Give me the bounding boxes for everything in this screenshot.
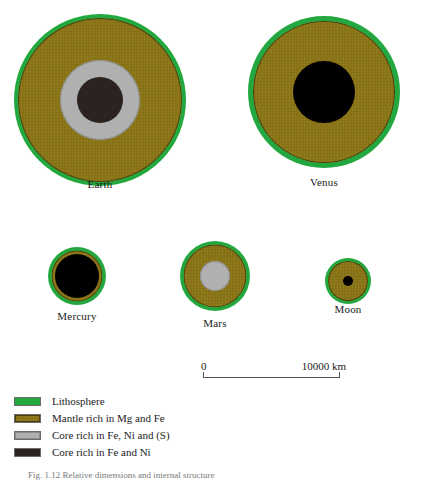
moon-core [343,276,353,286]
scale-tick-right [339,372,340,378]
scale-max-label: 10000 km [302,360,346,372]
scale-bar-line [203,377,340,378]
legend-label-lithosphere: Lithosphere [52,396,105,407]
legend-label-mantle: Mantle rich in Mg and Fe [52,413,165,424]
legend-label-inner-core: Core rich in Fe and Ni [52,447,151,458]
planet-venus [248,16,400,168]
legend-swatch-mantle [14,414,41,423]
legend-swatch-inner-core [14,448,41,457]
legend: Lithosphere Mantle rich in Mg and Fe Cor… [14,393,170,461]
scale-min-label: 0 [201,360,207,372]
mercury-core [55,254,99,298]
figure-caption: Fig. 1.12 Relative dimensions and intern… [28,470,418,480]
venus-core [293,61,355,123]
legend-item-inner-core: Core rich in Fe and Ni [14,444,170,461]
legend-swatch-lithosphere [14,397,41,406]
planet-label-moon: Moon [308,303,388,315]
planet-moon [325,258,371,304]
legend-item-mantle: Mantle rich in Mg and Fe [14,410,170,427]
earth-inner-core [77,77,123,123]
legend-item-outer-core: Core rich in Fe, Ni and (S) [14,427,170,444]
planet-label-venus: Venus [248,176,400,188]
legend-item-lithosphere: Lithosphere [14,393,170,410]
planet-mercury [48,247,106,305]
scale-tick-left [203,372,204,378]
planet-earth [14,14,186,186]
planet-label-earth: Earth [14,178,186,190]
planet-label-mercury: Mercury [37,310,117,322]
legend-swatch-outer-core [14,431,41,440]
legend-label-outer-core: Core rich in Fe, Ni and (S) [52,430,170,441]
mars-core [200,261,230,291]
planet-label-mars: Mars [175,317,255,329]
figure-canvas: Earth Venus Mercury Mars Moon 0 10000 km [0,0,425,481]
scale-bar: 0 10000 km [203,360,340,382]
planet-mars [180,241,250,311]
